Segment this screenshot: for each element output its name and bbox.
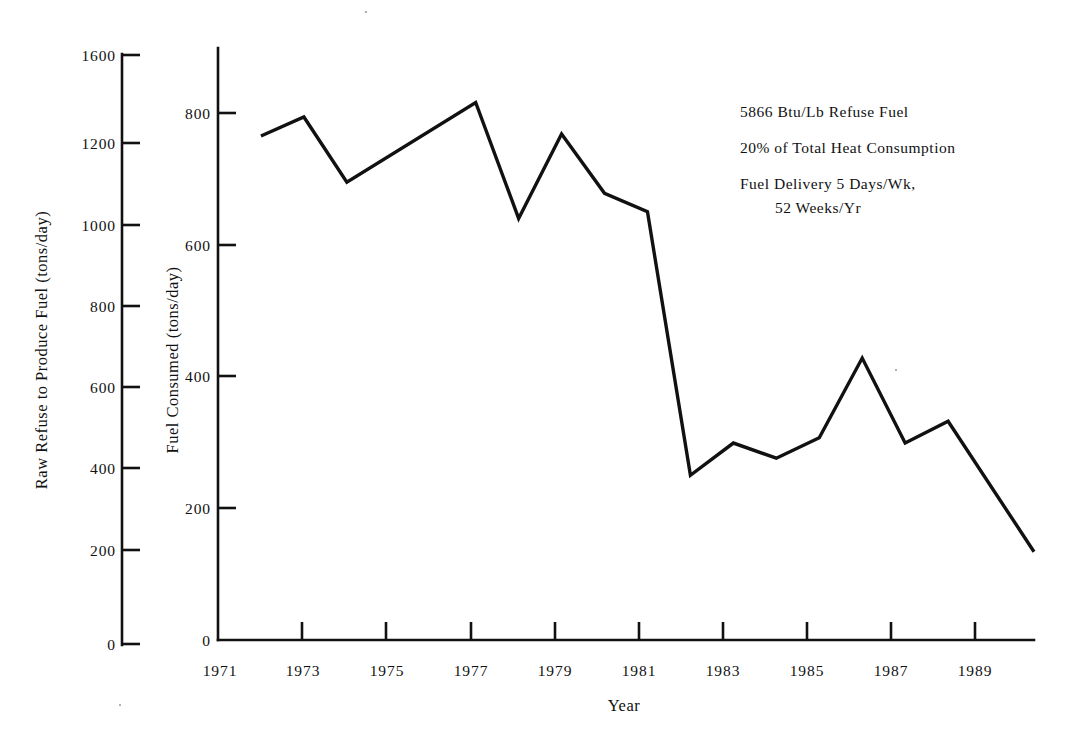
annotation-block: 5866 Btu/Lb Refuse Fuel 20% of Total Hea… bbox=[740, 103, 955, 216]
x-tick-label-1977: 1977 bbox=[454, 662, 489, 679]
primary-y-axis-title: Fuel Consumed (tons/day) bbox=[163, 266, 182, 453]
x-axis: 1971 1973 1975 1977 1979 1981 1983 1985 … bbox=[203, 622, 1034, 715]
x-axis-title: Year bbox=[608, 696, 640, 715]
scan-speck bbox=[365, 11, 367, 13]
chart-canvas: 1600 1200 1000 800 600 400 200 0 Raw Ref… bbox=[0, 0, 1066, 745]
x-tick-label-1979: 1979 bbox=[538, 662, 573, 679]
annotation-line-4: 52 Weeks/Yr bbox=[775, 199, 862, 216]
x-tick-label-1981: 1981 bbox=[622, 662, 657, 679]
secondary-y-tick-label-800: 800 bbox=[90, 298, 116, 315]
x-tick-label-1973: 1973 bbox=[286, 662, 321, 679]
chart-figure: 1600 1200 1000 800 600 400 200 0 Raw Ref… bbox=[0, 0, 1066, 745]
secondary-y-tick-label-1000: 1000 bbox=[81, 217, 116, 234]
primary-y-tick-label-200: 200 bbox=[185, 500, 211, 517]
data-line-fuel-consumed bbox=[261, 102, 1034, 551]
x-tick-label-1971: 1971 bbox=[203, 662, 238, 679]
x-tick-label-1975: 1975 bbox=[370, 662, 405, 679]
annotation-line-2: 20% of Total Heat Consumption bbox=[740, 139, 955, 156]
x-tick-label-1987: 1987 bbox=[874, 662, 909, 679]
scan-speck bbox=[119, 704, 121, 706]
secondary-y-tick-label-1600: 1600 bbox=[81, 47, 116, 64]
x-tick-label-1985: 1985 bbox=[790, 662, 825, 679]
primary-y-tick-label-800: 800 bbox=[185, 105, 211, 122]
annotation-line-3: Fuel Delivery 5 Days/Wk, bbox=[740, 175, 916, 192]
primary-y-tick-label-600: 600 bbox=[185, 237, 211, 254]
data-series-group bbox=[261, 102, 1034, 551]
secondary-y-tick-label-1200: 1200 bbox=[81, 135, 116, 152]
secondary-y-tick-label-0: 0 bbox=[107, 636, 116, 653]
primary-y-tick-label-400: 400 bbox=[185, 368, 211, 385]
x-tick-label-1989: 1989 bbox=[958, 662, 993, 679]
x-tick-label-1983: 1983 bbox=[706, 662, 741, 679]
secondary-y-axis: 1600 1200 1000 800 600 400 200 0 Raw Ref… bbox=[32, 47, 140, 653]
secondary-y-tick-label-400: 400 bbox=[90, 460, 116, 477]
secondary-y-tick-label-200: 200 bbox=[90, 542, 116, 559]
primary-y-tick-label-0: 0 bbox=[202, 632, 211, 649]
scan-speck bbox=[895, 369, 897, 371]
secondary-y-axis-title: Raw Refuse to Produce Fuel (tons/day) bbox=[32, 211, 51, 489]
secondary-y-tick-label-600: 600 bbox=[90, 379, 116, 396]
primary-y-axis: 800 600 400 200 0 Fuel Consumed (tons/da… bbox=[163, 48, 236, 649]
annotation-line-1: 5866 Btu/Lb Refuse Fuel bbox=[740, 103, 909, 120]
